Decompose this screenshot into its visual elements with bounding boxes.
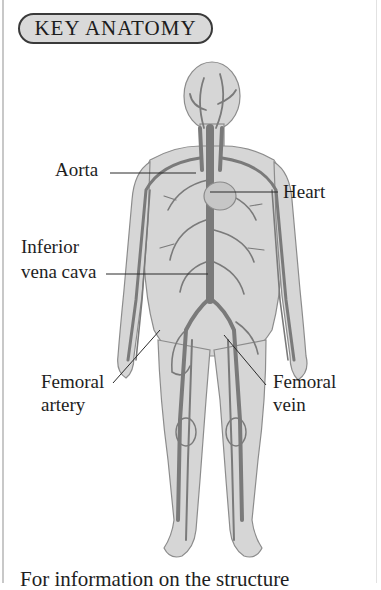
label-heart: Heart <box>283 180 325 204</box>
label-femoral-vein-line2: vein <box>273 393 306 417</box>
label-femoral-vein-line1: Femoral <box>273 370 336 394</box>
label-femoral-artery-line1: Femoral <box>41 370 104 394</box>
label-ivc-line1: Inferior <box>21 235 79 259</box>
label-ivc-line2: vena cava <box>21 260 96 284</box>
heart-shape <box>204 182 236 210</box>
label-aorta: Aorta <box>55 158 98 182</box>
footer-text: For information on the structure <box>20 567 289 590</box>
label-femoral-artery-line2: artery <box>41 393 85 417</box>
